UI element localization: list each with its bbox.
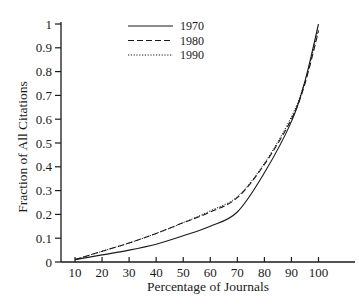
x-tick-label: 80 bbox=[258, 265, 271, 280]
x-tick-label: 10 bbox=[69, 265, 82, 280]
citation-curve-chart: 00.10.20.30.40.50.60.70.80.91 1020304050… bbox=[0, 0, 359, 308]
y-tick-label: 0.5 bbox=[36, 136, 52, 151]
x-tick-label: 100 bbox=[309, 265, 329, 280]
x-tick-label: 70 bbox=[231, 265, 244, 280]
y-tick-label: 0.3 bbox=[36, 183, 52, 198]
y-tick-label: 0.6 bbox=[36, 112, 53, 127]
legend-label: 1980 bbox=[180, 34, 204, 48]
y-tick-label: 1 bbox=[46, 17, 53, 32]
y-ticks: 00.10.20.30.40.50.60.70.80.91 bbox=[36, 17, 61, 270]
series-line-1990 bbox=[75, 29, 319, 260]
y-axis-title: Fraction of All Citations bbox=[15, 81, 30, 213]
x-tick-label: 90 bbox=[285, 265, 298, 280]
y-tick-label: 0.2 bbox=[36, 207, 52, 222]
legend-label: 1990 bbox=[180, 48, 204, 62]
y-tick-label: 0.1 bbox=[36, 231, 52, 246]
series-line-1980 bbox=[75, 31, 319, 260]
legend-label: 1970 bbox=[180, 19, 204, 33]
x-tick-label: 40 bbox=[150, 265, 163, 280]
y-tick-label: 0.4 bbox=[36, 159, 53, 174]
x-axis-title: Percentage of Journals bbox=[147, 279, 269, 294]
legend: 197019801990 bbox=[128, 19, 204, 62]
y-tick-label: 0.9 bbox=[36, 40, 52, 55]
y-tick-label: 0 bbox=[46, 255, 53, 270]
x-tick-label: 60 bbox=[204, 265, 217, 280]
y-tick-label: 0.7 bbox=[36, 88, 53, 103]
y-tick-label: 0.8 bbox=[36, 64, 52, 79]
x-tick-label: 20 bbox=[96, 265, 109, 280]
x-ticks: 102030405060708090100 bbox=[69, 257, 329, 280]
x-tick-label: 30 bbox=[123, 265, 136, 280]
x-tick-label: 50 bbox=[177, 265, 190, 280]
